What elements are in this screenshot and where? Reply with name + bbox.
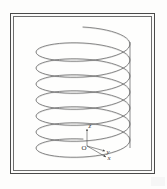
figure-drawing-area: zyxO <box>13 16 152 171</box>
helix-diagram-svg: zyxO <box>13 16 152 171</box>
helix-coil <box>36 27 130 158</box>
y-axis-line <box>87 146 105 151</box>
axis-label-origin: O <box>82 144 87 152</box>
scan-artifact <box>151 177 165 186</box>
axis-label-z: z <box>88 122 92 130</box>
helix-path <box>36 27 130 157</box>
coordinate-axes <box>87 129 106 157</box>
axis-label-x: x <box>107 154 112 162</box>
figure-root: zyxO <box>0 0 167 189</box>
